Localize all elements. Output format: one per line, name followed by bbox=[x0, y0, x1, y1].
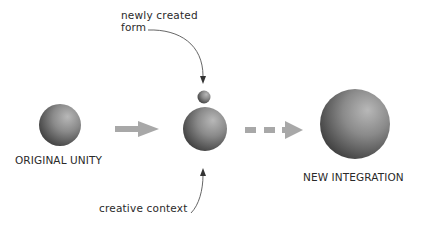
original-unity-sphere bbox=[39, 104, 81, 146]
down-arrowhead-icon bbox=[200, 76, 206, 84]
transitional-sphere bbox=[183, 107, 227, 151]
newly-created-label-line2: form bbox=[121, 22, 146, 33]
newly-created-label-line1: newly created bbox=[121, 10, 198, 21]
diagram-canvas bbox=[0, 0, 426, 228]
up-arrowhead-icon bbox=[200, 168, 206, 176]
new-integration-sphere bbox=[320, 89, 390, 159]
newly-created-leader-line bbox=[148, 30, 203, 76]
original-unity-label: ORIGINAL UNITY bbox=[15, 155, 102, 166]
creative-context-label: creative context bbox=[99, 203, 188, 214]
creative-context-leader-line bbox=[191, 175, 203, 213]
dashed-arrow-icon bbox=[245, 121, 303, 139]
new-integration-label: NEW INTEGRATION bbox=[303, 172, 404, 183]
newly-created-form-sphere bbox=[198, 91, 211, 104]
solid-arrow-icon bbox=[115, 121, 159, 137]
